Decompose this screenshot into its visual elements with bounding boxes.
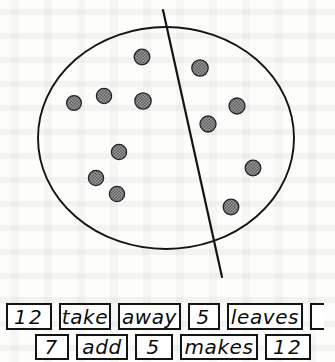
counter-dot <box>96 88 111 103</box>
word-card[interactable]: 5 <box>188 303 220 330</box>
word-card[interactable]: 12 <box>6 303 52 330</box>
left-counter-group <box>67 49 152 201</box>
word-card[interactable]: 7 <box>35 334 69 360</box>
word-card[interactable]: 5 <box>135 334 173 360</box>
word-card[interactable]: away <box>118 303 181 330</box>
word-card[interactable]: add <box>76 334 128 360</box>
word-card[interactable]: take <box>59 303 111 330</box>
addition-sentence-row: 7add5makes12 <box>35 334 311 360</box>
counter-dot <box>88 170 103 185</box>
counter-dot <box>135 93 151 109</box>
word-card[interactable]: leaves <box>227 303 303 330</box>
counter-dot <box>109 186 124 201</box>
counter-dot <box>67 96 82 111</box>
counter-dot <box>200 116 216 132</box>
counter-dot <box>111 144 126 159</box>
take-away-sentence-row: 12takeaway5leaves <box>6 303 324 330</box>
counter-dot <box>223 199 239 215</box>
word-card[interactable]: 12 <box>265 334 311 360</box>
group-ellipse <box>38 27 294 249</box>
counter-grouping-diagram <box>0 0 335 300</box>
counter-dot <box>245 160 261 176</box>
worksheet-page: 12takeaway5leaves 7add5makes12 <box>0 0 335 362</box>
counter-dot <box>192 60 208 76</box>
counter-dot <box>229 98 245 114</box>
partition-line <box>163 10 222 277</box>
word-card[interactable]: makes <box>180 334 258 360</box>
word-card-partial[interactable] <box>310 303 324 330</box>
counter-dot <box>134 49 150 65</box>
